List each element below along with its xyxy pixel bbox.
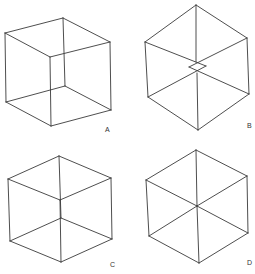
cube-edge: [198, 94, 249, 130]
cube-edge: [196, 5, 247, 38]
cube-edge: [111, 178, 112, 239]
cube-edge: [60, 178, 111, 200]
cube-edge: [145, 5, 196, 42]
cube-edge: [8, 179, 10, 241]
cube-edge: [61, 239, 112, 262]
cube-edge: [145, 42, 206, 66]
label-b: B: [247, 122, 252, 129]
cube-edge: [5, 33, 6, 102]
cube-edge: [6, 102, 51, 126]
label-a: A: [105, 126, 110, 133]
cube-a: [5, 18, 111, 126]
cube-edge: [189, 67, 249, 94]
cube-edge: [197, 176, 247, 206]
cube-c: [8, 156, 112, 262]
cube-edge: [5, 33, 50, 57]
cube-edge: [10, 218, 61, 241]
cube-d: [146, 150, 248, 263]
cube-edge: [6, 86, 65, 102]
cube-edge: [146, 150, 196, 180]
cube-edge: [5, 18, 63, 33]
cube-edge: [110, 42, 111, 110]
cube-edge: [196, 150, 197, 206]
cube-edge: [8, 156, 59, 179]
cube-edge: [247, 38, 249, 94]
cube-edge: [63, 18, 110, 42]
cube-edge: [50, 42, 110, 57]
cube-edge: [149, 206, 197, 236]
cube-edge: [50, 57, 51, 126]
cube-edge: [149, 236, 199, 263]
cube-edge: [145, 42, 148, 97]
label-d: D: [247, 259, 252, 266]
cube-edge: [65, 86, 111, 110]
cube-edge: [196, 150, 247, 176]
cube-edge: [148, 97, 198, 130]
cube-edge: [10, 241, 61, 262]
cube-edge: [61, 218, 112, 239]
cube-edge: [51, 110, 111, 126]
cube-edge: [197, 73, 198, 130]
label-c: C: [110, 261, 115, 268]
cube-edge: [8, 179, 60, 200]
cube-edge: [197, 206, 248, 233]
cube-edge: [146, 180, 149, 236]
cube-edge: [189, 38, 247, 67]
cube-edge: [146, 180, 197, 206]
cube-edge: [197, 206, 199, 263]
cube-figure: A B C D: [0, 0, 255, 274]
cube-b: [145, 5, 249, 130]
cube-edge: [59, 156, 111, 178]
cube-edge: [63, 18, 65, 86]
cube-edge: [199, 233, 248, 263]
cube-edge: [247, 176, 248, 233]
